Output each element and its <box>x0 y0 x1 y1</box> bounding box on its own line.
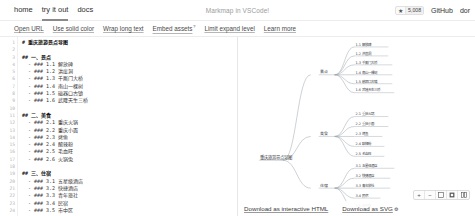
editor-line[interactable]: ## 三、住宿 <box>22 170 237 177</box>
mindmap-leaf-node[interactable]: 3.1 五星级酒店 <box>356 163 379 168</box>
line-number: 23 <box>0 200 17 207</box>
line-number: 5 <box>0 68 17 75</box>
mindmap-leaf-node[interactable]: 2.4 酸辣粉 <box>356 141 373 146</box>
markdown-editor-pane[interactable]: 1 2 3 4 5 6 7 8 9 10 11 12 13 14 15 16 1 <box>0 37 238 216</box>
mindmap-leaf-node[interactable]: 2.2 重庆小面 <box>356 121 376 126</box>
editor-line[interactable]: # 重庆旅游景点导图 <box>22 39 237 46</box>
editor-line[interactable] <box>22 163 237 170</box>
toolbar-limit-expand-level[interactable]: Limit expand level <box>204 25 254 32</box>
options-toolbar: Open URL Use solid color Wrap long text … <box>0 21 475 36</box>
editor-line[interactable]: - ### 3.2 快捷酒店 <box>22 185 237 192</box>
line-number: 20 <box>0 178 17 185</box>
zoom-out-button[interactable]: − <box>425 190 436 200</box>
editor-line[interactable]: - ### 2.3 烤鱼 <box>22 134 237 141</box>
mindmap-leaf-node[interactable]: 1.5 磁器口古镇 <box>356 79 379 84</box>
editor-line[interactable]: ## 一、景点 <box>22 54 237 61</box>
editor-content[interactable]: # 重庆旅游景点导图 ## 一、景点 - ### 1.1 解放碑 - ### 1… <box>18 37 237 216</box>
link-b3-l1 <box>335 168 355 188</box>
mindmap-branch-node[interactable]: 美食 <box>320 131 328 136</box>
line-number: 1 <box>0 39 17 46</box>
mindmap-zoom-toolbar[interactable]: + − <box>413 190 470 200</box>
mindmap-leaf-node[interactable]: 1.3 千厮门大桥 <box>356 60 379 65</box>
site-header: home try it out docs Markmap in VSCode! … <box>0 0 475 21</box>
editor-line[interactable]: ## 二、美食 <box>22 112 237 119</box>
header-link-donate[interactable]: dor <box>460 7 470 14</box>
editor-line[interactable]: - ### 1.2 洪崖洞 <box>22 68 237 75</box>
link-b1-l5 <box>335 75 355 84</box>
header-link-github[interactable]: GitHub <box>431 7 453 14</box>
mindmap-root-node[interactable]: 重庆旅游景点导图 <box>260 154 292 161</box>
editor-line[interactable]: - ### 1.1 解放碑 <box>22 61 237 68</box>
editor-line[interactable]: - ### 2.4 酸辣粉 <box>22 141 237 148</box>
link-b3-l4 <box>335 188 355 198</box>
toolbar-open-url-label: Open URL <box>14 25 44 32</box>
mindmap-leaf-node[interactable]: 1.6 武隆天生三桥 <box>356 87 382 92</box>
mindmap-leaf-node[interactable]: 3.4 民宿 <box>356 193 370 198</box>
mindmap-branch-node[interactable]: 景点 <box>320 69 328 74</box>
mindmap-download-footer: Download as interactive HTML Download as… <box>238 201 475 216</box>
fit-icon[interactable] <box>436 190 447 200</box>
download-html-link[interactable]: Download as interactive HTML <box>244 205 328 212</box>
editor-line[interactable]: - ### 3.4 民宿 <box>22 200 237 207</box>
toolbar-learn-more-label: Learn more <box>264 25 296 32</box>
toolbar-embed-assets-label: Embed assets <box>153 26 193 33</box>
mindmap-leaf-node[interactable]: 1.4 南山一棵树 <box>356 70 379 75</box>
link-b2-l5 <box>335 136 355 156</box>
toolbar-open-url[interactable]: Open URL <box>14 25 44 32</box>
toolbar-use-solid-color[interactable]: Use solid color <box>53 25 94 32</box>
editor-line[interactable]: - ### 2.2 重庆小面 <box>22 127 237 134</box>
toolbar-learn-more[interactable]: Learn more <box>264 25 296 32</box>
line-number: 7 <box>0 83 17 90</box>
line-number: 18 <box>0 163 17 170</box>
mindmap-pane[interactable]: 重庆旅游景点导图 景点 美食 住宿 1.1 解放碑 1.2 洪崖洞 1.3 千厮… <box>238 37 475 216</box>
editor-line[interactable]: - ### 3.3 青年旅社 <box>22 192 237 199</box>
mindmap-leaf-node[interactable]: 1.2 洪崖洞 <box>356 51 373 56</box>
editor-line[interactable]: - ### 1.5 磁器口古镇 <box>22 90 237 97</box>
mindmap-leaf-node[interactable]: 2.3 烤鱼 <box>356 131 370 136</box>
editor-line[interactable]: - ### 3.1 五星级酒店 <box>22 178 237 185</box>
mindmap-leaf-node[interactable]: 2.5 毛血旺 <box>356 151 373 156</box>
nav-item-try-it-out[interactable]: try it out <box>42 4 69 17</box>
line-number: 14 <box>0 134 17 141</box>
header-right-group: ★ 5,008 GitHub dor <box>395 6 470 15</box>
code-mirror[interactable]: 1 2 3 4 5 6 7 8 9 10 11 12 13 14 15 16 1 <box>0 37 237 216</box>
link-root-b3 <box>283 160 311 188</box>
nav-item-home[interactable]: home <box>14 4 33 17</box>
editor-line[interactable]: - ### 3.5 市中区 <box>22 207 237 214</box>
editor-line[interactable]: - ### 1.3 千厮门大桥 <box>22 75 237 82</box>
line-number: 21 <box>0 185 17 192</box>
line-number: 9 <box>0 97 17 104</box>
mindmap-leaf-node[interactable]: 1.1 解放碑 <box>356 42 373 47</box>
zoom-in-button[interactable]: + <box>414 190 425 200</box>
editor-line[interactable]: - ### 2.1 重庆火锅 <box>22 119 237 126</box>
mindmap-branch-node[interactable]: 住宿 <box>320 183 328 188</box>
download-icon: ⚙ <box>394 206 398 212</box>
mindmap-leaf-node[interactable]: 2.1 重庆火锅 <box>356 111 376 116</box>
toolbar-embed-assets[interactable]: Embed assets? <box>153 24 196 32</box>
editor-line[interactable]: - ### 2.6 火锅兔 <box>22 156 237 163</box>
link-b3-l2 <box>335 178 355 188</box>
help-icon[interactable]: ? <box>193 24 195 29</box>
line-number: 16 <box>0 148 17 155</box>
editor-line[interactable]: - ### 1.4 南山一棵树 <box>22 83 237 90</box>
link-b1-l1 <box>335 47 355 75</box>
download-svg-link[interactable]: Download as SVG⚙ <box>342 205 398 212</box>
editor-line[interactable]: - ### 2.5 毛血旺 <box>22 148 237 155</box>
link-b1-l6 <box>335 75 355 93</box>
collapse-icon[interactable] <box>458 190 469 200</box>
editor-line[interactable] <box>22 46 237 53</box>
github-star-badge[interactable]: ★ 5,008 <box>395 6 424 15</box>
line-number: 6 <box>0 75 17 82</box>
line-number: 3 <box>0 54 17 61</box>
mindmap-leaf-node[interactable]: 3.3 青年旅社 <box>356 183 376 188</box>
mindmap-leaf-node[interactable]: 3.2 快捷酒店 <box>356 173 376 178</box>
editor-line[interactable]: - ### 1.6 武隆天生三桥 <box>22 97 237 104</box>
toolbar-wrap-long-text[interactable]: Wrap long text <box>103 25 143 32</box>
line-number: 17 <box>0 156 17 163</box>
line-number: 10 <box>0 105 17 112</box>
editor-line[interactable] <box>22 105 237 112</box>
expand-icon[interactable] <box>447 190 458 200</box>
line-number: 11 <box>0 112 17 119</box>
nav-item-docs[interactable]: docs <box>77 4 93 17</box>
toolbar-use-solid-color-label: Use solid color <box>53 25 94 32</box>
